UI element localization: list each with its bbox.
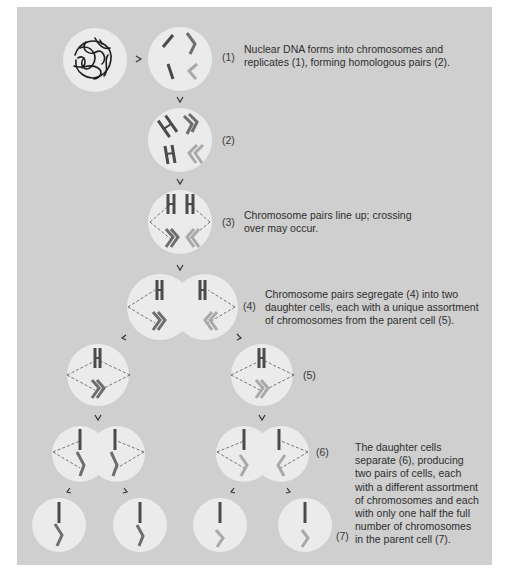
arrow-down-left <box>231 488 235 493</box>
cell-step7-1 <box>32 498 86 552</box>
step-label-2: (2) <box>222 134 235 147</box>
step-label-5: (5) <box>303 369 316 382</box>
description-step3: Chromosome pairs line up; crossing over … <box>244 209 412 235</box>
arrow-down <box>177 179 183 184</box>
cell-step2 <box>148 108 212 172</box>
cell-step7-4 <box>278 498 332 552</box>
cell-step4 <box>127 274 238 340</box>
arrow-down-right <box>286 488 290 493</box>
nucleus-cell <box>63 28 127 92</box>
description-step6: The daughter cells separate (6), produci… <box>355 441 479 547</box>
cell-step7-3 <box>193 498 247 552</box>
cell-step5-left <box>67 344 130 406</box>
description-step4: Chromosome pairs segregate (4) into two … <box>265 288 479 328</box>
cell-step1 <box>148 27 212 91</box>
cell-step6-left <box>52 426 145 482</box>
cell-step5-right <box>231 344 294 406</box>
arrow-down <box>177 97 183 102</box>
step-label-6: (6) <box>316 446 329 459</box>
step-label-7: (7) <box>336 530 349 543</box>
cell-step6-right <box>216 426 309 482</box>
arrow-down-left <box>122 335 126 340</box>
arrow-down <box>95 415 101 420</box>
step-label-4: (4) <box>243 300 256 313</box>
arrow-down-right <box>123 488 127 493</box>
arrow-down <box>259 415 265 420</box>
cell-step7-2 <box>113 498 167 552</box>
cell-step3 <box>148 190 212 254</box>
arrow-down <box>177 265 183 270</box>
arrow-right <box>136 56 141 62</box>
arrow-down-right <box>237 334 241 340</box>
step-label-3: (3) <box>222 216 235 229</box>
step-label-1: (1) <box>222 51 235 64</box>
arrow-down-left <box>67 488 71 493</box>
description-step1: Nuclear DNA forms into chromosomes and r… <box>244 43 450 69</box>
